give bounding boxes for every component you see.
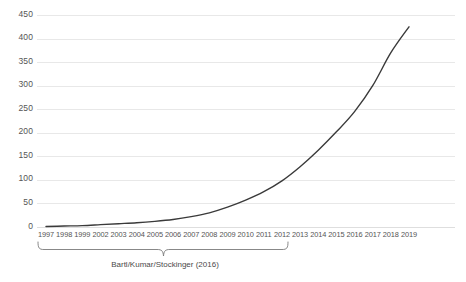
gridline-0: [37, 227, 455, 228]
brace-icon: [30, 241, 300, 259]
y-tick-label-300: 300: [0, 80, 33, 89]
x-tick-label-2018: 2018: [381, 230, 401, 240]
y-tick-label-350: 350: [0, 57, 33, 66]
x-tick-label-2005: 2005: [145, 230, 165, 240]
annotation-group: Bartl/Kumar/Stockinger (2016): [30, 241, 300, 277]
y-tick-label-250: 250: [0, 104, 33, 113]
plot-area: [37, 15, 455, 227]
series-line: [37, 15, 455, 227]
y-tick-label-450: 450: [0, 10, 33, 19]
y-tick-label-200: 200: [0, 127, 33, 136]
x-tick-label-2014: 2014: [308, 230, 328, 240]
x-tick-label-1999: 1999: [72, 230, 92, 240]
x-tick-label-1998: 1998: [54, 230, 74, 240]
y-axis: 450 400 350 300 250 200 150 100 50 0: [0, 0, 33, 242]
x-tick-label-2006: 2006: [163, 230, 183, 240]
x-tick-label-2013: 2013: [290, 230, 310, 240]
x-tick-label-2012: 2012: [272, 230, 292, 240]
y-tick-label-0: 0: [0, 222, 33, 231]
x-tick-label-2015: 2015: [326, 230, 346, 240]
x-tick-label-2002: 2002: [90, 230, 110, 240]
x-tick-label-2016: 2016: [345, 230, 365, 240]
y-tick-label-50: 50: [0, 198, 33, 207]
line-chart: 450 400 350 300 250 200 150 100 50 0 199…: [0, 0, 466, 282]
x-tick-label-2003: 2003: [109, 230, 129, 240]
y-tick-label-100: 100: [0, 174, 33, 183]
x-tick-label-2017: 2017: [363, 230, 383, 240]
x-tick-label-2010: 2010: [236, 230, 256, 240]
x-tick-label-2007: 2007: [181, 230, 201, 240]
x-tick-label-2004: 2004: [127, 230, 147, 240]
x-tick-label-2019: 2019: [399, 230, 419, 240]
x-tick-label-2009: 2009: [218, 230, 238, 240]
x-tick-label-1997: 1997: [36, 230, 56, 240]
y-tick-label-150: 150: [0, 151, 33, 160]
x-tick-label-2008: 2008: [199, 230, 219, 240]
x-tick-label-2011: 2011: [254, 230, 274, 240]
y-tick-label-400: 400: [0, 33, 33, 42]
annotation-label: Bartl/Kumar/Stockinger (2016): [30, 260, 300, 270]
